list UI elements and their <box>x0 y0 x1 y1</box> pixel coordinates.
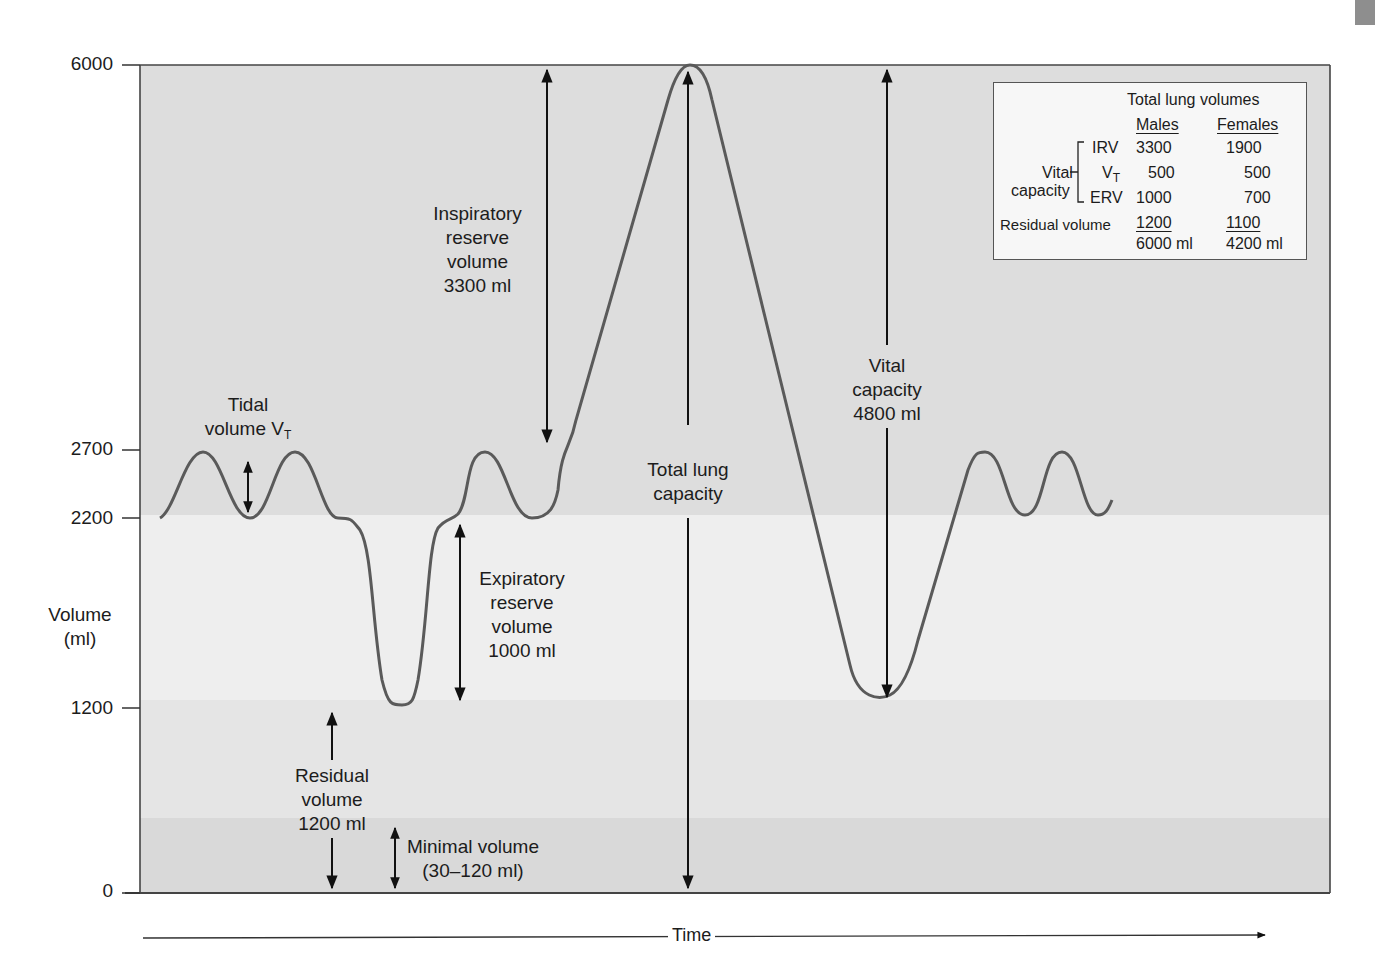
legend-erv-males: 1000 <box>1136 189 1172 207</box>
y-axis-label: Volume (ml) <box>30 603 130 651</box>
tidal-volume-label: Tidal volume VT <box>183 393 313 447</box>
vital-capacity-label: Vital capacity 4800 ml <box>837 354 937 426</box>
minimal-volume-label: Minimal volume (30–120 ml) <box>403 835 543 883</box>
y-tick-2200: 2200 <box>13 507 113 529</box>
lung-volumes-legend: Total lung volumes Males Females Vital c… <box>993 82 1307 260</box>
legend-vt-females: 500 <box>1244 164 1271 182</box>
y-axis-ticks <box>122 65 140 893</box>
irv-label: Inspiratory reserve volume 3300 ml <box>410 202 545 298</box>
y-tick-1200: 1200 <box>13 697 113 719</box>
erv-label: Expiratory reserve volume 1000 ml <box>462 567 582 663</box>
legend-col-females: Females <box>1217 116 1278 134</box>
total-lung-capacity-label: Total lung capacity <box>618 458 758 506</box>
legend-bracket <box>1070 138 1090 208</box>
legend-total-males: 6000 ml <box>1136 235 1193 253</box>
y-tick-6000: 6000 <box>13 53 113 75</box>
legend-row-irv-label: IRV <box>1092 139 1118 157</box>
legend-group-capacity: capacity <box>1011 182 1070 200</box>
legend-erv-females: 700 <box>1244 189 1271 207</box>
legend-irv-males: 3300 <box>1136 139 1172 157</box>
legend-row-erv-label: ERV <box>1090 189 1123 207</box>
y-tick-2700: 2700 <box>13 438 113 460</box>
legend-rv-males: 1200 <box>1136 214 1172 232</box>
legend-irv-females: 1900 <box>1226 139 1262 157</box>
legend-row-vt-label: VT <box>1102 164 1120 185</box>
legend-col-males: Males <box>1136 116 1179 134</box>
legend-rv-females: 1100 <box>1226 214 1260 232</box>
legend-group-vital: Vital <box>1042 164 1070 182</box>
y-tick-0: 0 <box>13 880 113 902</box>
legend-vt-males: 500 <box>1148 164 1175 182</box>
legend-title: Total lung volumes <box>1127 91 1260 109</box>
legend-total-females: 4200 ml <box>1226 235 1283 253</box>
residual-volume-label: Residual volume 1200 ml <box>272 764 392 836</box>
x-axis-label: Time <box>668 925 715 946</box>
legend-row-rv-label: Residual volume <box>1000 216 1111 233</box>
